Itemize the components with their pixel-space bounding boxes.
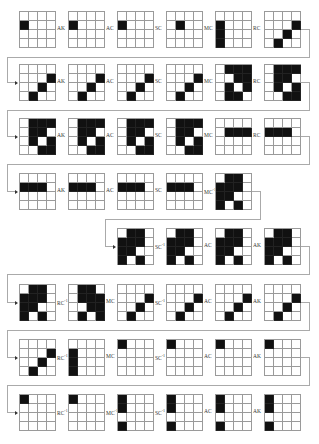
operation-label: SC	[155, 132, 162, 138]
empty-cell	[145, 285, 154, 294]
empty-cell	[118, 192, 127, 201]
empty-cell	[69, 128, 78, 137]
connector-line	[301, 29, 310, 58]
filled-cell	[176, 238, 185, 247]
empty-cell	[167, 312, 176, 321]
filled-cell	[29, 294, 38, 303]
empty-cell	[234, 12, 243, 21]
empty-cell	[194, 21, 203, 30]
empty-cell	[87, 367, 96, 376]
empty-cell	[176, 146, 185, 155]
filled-cell	[38, 83, 47, 92]
empty-cell	[225, 12, 234, 21]
empty-cell	[29, 74, 38, 83]
empty-cell	[274, 285, 283, 294]
empty-cell	[145, 395, 154, 404]
connector-line	[301, 302, 310, 331]
empty-cell	[38, 174, 47, 183]
empty-cell	[118, 65, 127, 74]
empty-cell	[274, 119, 283, 128]
empty-cell	[38, 367, 47, 376]
empty-cell	[38, 12, 47, 21]
empty-cell	[69, 192, 78, 201]
empty-cell	[47, 340, 56, 349]
filled-cell	[145, 146, 154, 155]
filled-cell	[167, 247, 176, 256]
operation-label: SC-1	[155, 242, 165, 250]
filled-cell	[234, 238, 243, 247]
empty-cell	[118, 83, 127, 92]
empty-cell	[167, 146, 176, 155]
empty-cell	[176, 83, 185, 92]
empty-cell	[20, 30, 29, 39]
empty-cell	[176, 65, 185, 74]
filled-cell	[38, 294, 47, 303]
empty-cell	[292, 12, 301, 21]
empty-cell	[87, 422, 96, 431]
empty-cell	[96, 340, 105, 349]
empty-cell	[185, 367, 194, 376]
filled-cell	[194, 74, 203, 83]
empty-cell	[194, 174, 203, 183]
filled-cell	[234, 65, 243, 74]
empty-cell	[243, 238, 252, 247]
empty-cell	[47, 303, 56, 312]
empty-cell	[69, 201, 78, 210]
pattern-grid	[68, 64, 105, 101]
operation-label: RC	[253, 25, 260, 31]
filled-cell	[127, 137, 136, 146]
empty-cell	[127, 395, 136, 404]
filled-cell	[274, 65, 283, 74]
empty-cell	[176, 340, 185, 349]
empty-cell	[47, 83, 56, 92]
empty-cell	[145, 83, 154, 92]
empty-cell	[283, 340, 292, 349]
filled-cell	[96, 146, 105, 155]
empty-cell	[78, 367, 87, 376]
empty-cell	[69, 92, 78, 101]
pattern-grid	[166, 228, 203, 265]
empty-cell	[118, 12, 127, 21]
empty-cell	[20, 358, 29, 367]
empty-cell	[274, 422, 283, 431]
filled-cell	[38, 183, 47, 192]
empty-cell	[265, 83, 274, 92]
empty-cell	[127, 358, 136, 367]
empty-cell	[87, 12, 96, 21]
empty-cell	[136, 358, 145, 367]
filled-cell	[29, 285, 38, 294]
empty-cell	[176, 294, 185, 303]
filled-cell	[234, 201, 243, 210]
operation-label: MC	[106, 353, 115, 359]
empty-cell	[243, 174, 252, 183]
filled-cell	[136, 229, 145, 238]
empty-cell	[96, 358, 105, 367]
empty-cell	[283, 367, 292, 376]
empty-cell	[96, 65, 105, 74]
empty-cell	[176, 174, 185, 183]
empty-cell	[265, 358, 274, 367]
pattern-grid	[68, 339, 105, 376]
empty-cell	[216, 74, 225, 83]
empty-cell	[243, 422, 252, 431]
empty-cell	[216, 128, 225, 137]
pattern-grid	[215, 228, 252, 265]
empty-cell	[265, 294, 274, 303]
empty-cell	[20, 12, 29, 21]
empty-cell	[20, 422, 29, 431]
operation-label: SC	[155, 25, 162, 31]
empty-cell	[216, 137, 225, 146]
empty-cell	[78, 174, 87, 183]
empty-cell	[274, 294, 283, 303]
empty-cell	[292, 395, 301, 404]
empty-cell	[87, 201, 96, 210]
filled-cell	[167, 183, 176, 192]
filled-cell	[234, 229, 243, 238]
operation-label: RC	[253, 78, 260, 84]
filled-cell	[243, 128, 252, 137]
empty-cell	[38, 30, 47, 39]
empty-cell	[29, 340, 38, 349]
empty-cell	[185, 174, 194, 183]
empty-cell	[234, 30, 243, 39]
empty-cell	[292, 413, 301, 422]
